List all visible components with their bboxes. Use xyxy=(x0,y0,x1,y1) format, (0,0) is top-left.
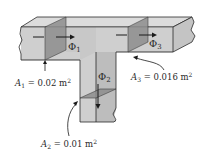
area-label-a2: A2 = 0.01 m2 xyxy=(40,138,97,150)
stem-front-face xyxy=(80,52,96,122)
leader-a3 xyxy=(133,56,164,71)
leader-a2 xyxy=(68,101,78,136)
t-junction-diagram: Φ1 Φ3 Φ2 A1 = 0.02 m2 A3 = 0.016 m2 A2 =… xyxy=(0,0,208,154)
leader-a1 xyxy=(43,60,47,71)
area-label-a1: A1 = 0.02 m2 xyxy=(14,77,71,89)
area-label-a3: A3 = 0.016 m2 xyxy=(130,71,193,83)
bar-top-face xyxy=(21,17,192,27)
stem-side-face xyxy=(96,52,116,122)
